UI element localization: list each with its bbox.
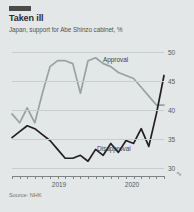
x-axis-tick [149,176,150,179]
gridline [12,52,164,53]
x-axis-label: 2019 [52,181,66,188]
source-note: Source: NHK [9,192,42,198]
approval-series-label: Approval [103,56,128,63]
y-axis-tick: 45 [168,78,175,85]
x-axis-tick [42,176,43,179]
x-axis-tick [73,176,74,179]
x-axis-tick [141,176,142,179]
y-axis-tick: 40 [168,107,175,114]
x-axis-tick [12,176,13,179]
plot-canvas [12,40,164,176]
x-axis-tick [103,176,104,179]
chart-subtitle: Japan, support for Abe Shinzo cabinet, % [9,26,123,33]
chart-title: Taken ill [9,13,43,23]
gridline [12,110,164,111]
x-axis-tick [27,176,28,179]
x-axis-tick [156,176,157,179]
series-lines [12,40,164,176]
x-axis-label: 2020 [125,181,139,188]
x-axis-tick [118,176,119,179]
x-axis-tick [35,176,36,179]
chart-card: Taken ill Japan, support for Abe Shinzo … [0,0,194,212]
y-axis-tick: 30 [168,165,175,172]
brand-tag [9,6,31,11]
x-axis-tick [134,176,135,179]
x-axis-tick [126,176,127,179]
x-axis-tick [50,176,51,179]
approval-line [12,58,164,123]
gridline [12,139,164,140]
disapproval-series-label: Disapproval [97,145,131,152]
x-axis-tick [58,176,59,179]
plot-area [0,36,194,184]
x-axis-tick [88,176,89,179]
y-axis-tick: 50 [168,49,175,56]
x-axis-tick [96,176,97,179]
axis-break-icon: ∿ [176,170,182,178]
gridline [12,81,164,82]
x-axis-tick [164,176,165,179]
x-axis-tick [65,176,66,179]
x-axis-tick [111,176,112,179]
y-axis-tick: 35 [168,136,175,143]
x-axis-tick [80,176,81,179]
gridline [12,168,164,169]
x-axis-tick [20,176,21,179]
